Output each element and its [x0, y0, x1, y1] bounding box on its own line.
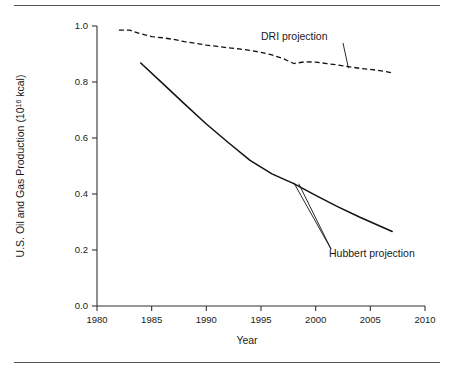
figure-container: 0.00.20.40.60.81.0 198019851990199520002…: [0, 0, 454, 376]
x-axis-ticks: [97, 306, 425, 311]
x-tick-label: 1985: [141, 314, 162, 325]
hubbert-leader-line-b: [299, 184, 331, 249]
y-axis-title-superscript: 16: [15, 100, 22, 108]
y-tick-label: 0.8: [75, 76, 88, 87]
chart-plot: 0.00.20.40.60.81.0 198019851990199520002…: [0, 0, 454, 376]
y-axis-title-tail: kcal): [14, 75, 26, 100]
y-axis-title-main: U.S. Oil and Gas Production (10: [14, 107, 26, 257]
annotation-dri-projection: DRI projection: [261, 30, 328, 42]
x-axis-tick-labels: 1980198519901995200020052010: [86, 314, 435, 325]
y-tick-label: 0.0: [75, 300, 88, 311]
y-tick-label: 0.6: [75, 132, 88, 143]
y-axis-tick-labels: 0.00.20.40.60.81.0: [75, 20, 88, 311]
y-tick-label: 0.2: [75, 244, 88, 255]
series-hubbert-projection: [141, 63, 392, 232]
x-tick-label: 1995: [250, 314, 271, 325]
x-tick-label: 2005: [360, 314, 381, 325]
x-tick-label: 2000: [305, 314, 326, 325]
y-axis-title: U.S. Oil and Gas Production (1016 kcal): [14, 75, 26, 258]
y-tick-label: 0.4: [75, 188, 88, 199]
annotation-hubbert-projection: Hubbert projection: [329, 247, 415, 259]
series-dri-projection: [119, 30, 392, 73]
x-axis-title: Year: [236, 334, 258, 346]
y-tick-label: 1.0: [75, 20, 88, 31]
hubbert-leader-line-a: [294, 183, 331, 249]
y-axis-ticks: [92, 26, 97, 306]
x-tick-label: 1990: [196, 314, 217, 325]
x-tick-label: 2010: [414, 314, 435, 325]
dri-leader-line: [343, 43, 348, 68]
x-tick-label: 1980: [86, 314, 107, 325]
